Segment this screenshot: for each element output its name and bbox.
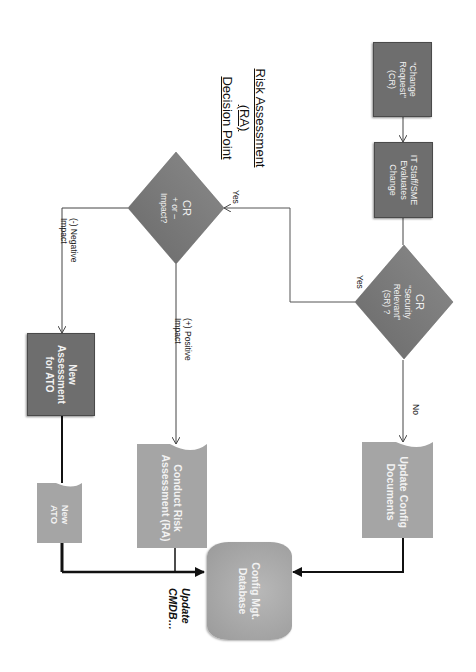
conduct-risk-label: Conduct Risk Assessment (RA) [160, 455, 184, 542]
new-assessment-box[interactable]: New Assessment for ATO [27, 333, 95, 416]
impact-title: CR [180, 193, 193, 223]
new-assessment-label: New Assessment for ATO [44, 345, 79, 404]
title-line-1: Risk Assessment [252, 62, 268, 174]
sr-yes-label: Yes [354, 275, 364, 289]
impact-label: + or – Impact? [159, 193, 179, 223]
update-config-docs-label: Update Config Documents [385, 456, 409, 528]
conduct-risk-node[interactable]: Conduct Risk Assessment (RA) [137, 448, 207, 548]
sr-title: CR [413, 284, 426, 321]
config-db-label: Config Mgt. Database [237, 562, 261, 620]
config-mgt-database[interactable]: Config Mgt. Database [207, 542, 292, 640]
sr-no-label: No [410, 404, 420, 415]
flowchart-stage: Risk Assessment (RA) Decision Point "Cha… [0, 0, 476, 672]
sr-label: "Security Relevant" (SR) ? [382, 284, 412, 321]
update-config-docs-node[interactable]: Update Config Documents [362, 446, 433, 538]
positive-impact-label: (+) Positive Impact [172, 318, 192, 361]
risk-assessment-title: Risk Assessment (RA) Decision Point [219, 62, 268, 174]
new-ato-node[interactable]: New ATO [37, 486, 82, 543]
update-cmdb-label: Update CMDB… [167, 588, 192, 630]
negative-impact-label: (-) Negative Impact [58, 218, 78, 262]
it-staff-evaluates-box[interactable]: IT Staff/SME Evaluates Change [374, 142, 433, 218]
title-line-2: (RA) [236, 62, 252, 174]
impact-yes-label: Yes [230, 190, 240, 204]
new-ato-label: New ATO [49, 505, 71, 525]
security-relevant-decision[interactable]: CR"Security Relevant" (SR) ? [355, 245, 453, 359]
impact-decision[interactable]: CR+ or – Impact? [128, 152, 224, 264]
change-request-box[interactable]: "Change Request" (CR) [373, 42, 432, 117]
it-staff-label: IT Staff/SME Evaluates Change [388, 155, 419, 206]
change-request-label: "Change Request" (CR) [387, 61, 418, 98]
